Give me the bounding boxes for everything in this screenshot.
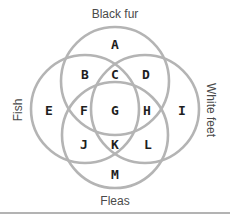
set-label-black-fur: Black fur <box>92 7 139 21</box>
region-k: K <box>111 137 119 152</box>
region-m: M <box>111 167 119 182</box>
region-l: L <box>144 137 152 152</box>
region-g: G <box>111 103 119 118</box>
set-label-fish: Fish <box>11 99 25 122</box>
region-f: F <box>80 103 88 118</box>
region-i: I <box>178 103 186 118</box>
set-label-fleas: Fleas <box>100 194 129 208</box>
region-j: J <box>80 137 88 152</box>
region-d: D <box>142 67 150 82</box>
region-a: A <box>111 37 119 52</box>
region-b: B <box>81 67 89 82</box>
set-label-white-feet: White feet <box>204 83 218 138</box>
venn-diagram: Black fur Fish White feet Fleas A B C D … <box>0 0 230 216</box>
region-e: E <box>45 103 53 118</box>
region-c: C <box>111 67 119 82</box>
region-h: H <box>143 103 151 118</box>
